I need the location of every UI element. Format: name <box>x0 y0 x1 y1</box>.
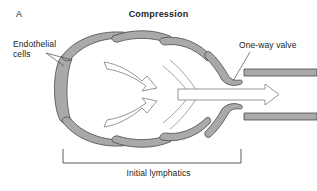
lymphatic-compression-figure: A Compression Endothelial cells One-way … <box>0 0 317 191</box>
initial-lymphatics-bracket <box>63 149 241 163</box>
one-way-valve-label: One-way valve <box>239 40 297 50</box>
endothelial-flap-lower-right <box>160 117 211 140</box>
figure-title: Compression <box>0 9 317 19</box>
inflow-arrow-lower <box>104 98 157 127</box>
endothelial-cells-label: Endothelial cells <box>13 39 56 59</box>
collecting-vessel-lower-wall <box>244 113 317 120</box>
bracket-path <box>63 149 241 163</box>
outflow-arrow-central <box>178 84 279 105</box>
leader-one-way-valve <box>233 52 250 81</box>
collecting-vessel-upper-wall <box>244 69 317 76</box>
inflow-arrow-upper <box>104 62 157 91</box>
initial-lymphatics-label: Initial lymphatics <box>0 168 317 178</box>
lymphatic-diagram-svg <box>0 0 317 191</box>
valve-leaflet-upper <box>205 52 243 86</box>
endothelial-flap-left <box>54 55 72 124</box>
endothelial-flap-upper-right <box>160 37 211 60</box>
